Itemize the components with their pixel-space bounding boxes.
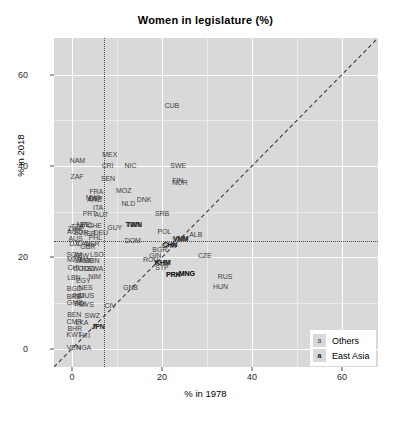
data-point-label: MEX	[102, 151, 117, 158]
legend-label: Others	[332, 336, 359, 346]
legend-item-east-asia[interactable]: aEast Asia	[313, 348, 370, 363]
y-axis-tick-label: 60	[0, 70, 28, 80]
data-point-label: NGA	[76, 344, 91, 351]
data-point-label: POL	[157, 227, 171, 234]
data-point-label: SWZ	[85, 311, 100, 318]
data-point-label: CUB	[165, 101, 179, 108]
y-axis-tick-mark	[50, 257, 54, 258]
data-point-label: IDN	[88, 257, 100, 264]
data-point-label: SWA	[88, 265, 103, 272]
y-axis-label: % in 2018	[15, 116, 26, 196]
x-axis-label: % in 1978	[0, 388, 411, 399]
legend-key-glyph: a	[313, 334, 326, 347]
legend-label: East Asia	[332, 351, 370, 361]
data-point-label: ALB	[189, 231, 202, 238]
data-point-label: AUT	[94, 210, 108, 217]
data-point-label: ZAF	[70, 172, 83, 179]
plot-panel: CUBMEXNAMCRINICSWEZAFSENFINNORFRAMOZMWIE…	[54, 38, 378, 367]
y-axis-tick-label: 20	[0, 252, 28, 262]
y-axis-tick-mark	[50, 348, 54, 349]
data-point-label: RUS	[218, 272, 232, 279]
x-axis-tick-mark	[72, 367, 73, 371]
data-point-label: NOR	[172, 178, 187, 185]
data-point-label: SWE	[170, 161, 186, 168]
data-point-label: MOZ	[116, 186, 131, 193]
data-point-label: HTI	[79, 332, 90, 339]
data-point-label: VNM	[173, 235, 188, 242]
y-axis-tick-mark	[50, 165, 54, 166]
data-point-label: ARG	[87, 196, 102, 203]
legend-item-others[interactable]: aOthers	[313, 333, 370, 348]
data-point-label: NAM	[70, 157, 85, 164]
data-point-label: SEN	[101, 174, 115, 181]
data-point-label: GBR	[80, 242, 95, 249]
data-point-label: NLD	[121, 199, 135, 206]
data-point-label: HUN	[213, 282, 228, 289]
data-point-label: JPN	[91, 322, 104, 329]
data-point-label: NIC	[125, 162, 137, 169]
data-point-label: CRI	[102, 162, 114, 169]
legend-key-glyph: a	[313, 349, 326, 362]
data-point-label: GUY	[107, 223, 122, 230]
x-axis-tick-label: 60	[322, 372, 362, 382]
data-point-label: MYS	[79, 300, 94, 307]
data-point-label: BEN	[67, 310, 81, 317]
data-point-label: KHM	[155, 258, 171, 265]
x-axis-tick-mark	[162, 367, 163, 371]
chart-root: Women in legislature (%) CUBMEXNAMCRINIC…	[0, 0, 411, 423]
y-axis-tick-mark	[50, 74, 54, 75]
x-axis-tick-label: 0	[52, 372, 92, 382]
data-point-label: DNK	[137, 195, 151, 202]
data-point-label: SRB	[155, 209, 169, 216]
data-point-label: DOM	[125, 236, 141, 243]
data-point-label: PRK	[166, 270, 180, 277]
data-point-label: NES	[78, 283, 92, 290]
identity-line	[54, 38, 378, 367]
page-title: Women in legislature (%)	[0, 14, 411, 26]
x-axis-tick-label: 40	[232, 372, 272, 382]
data-point-label: CIV	[105, 301, 116, 308]
x-axis-tick-mark	[342, 367, 343, 371]
x-axis-tick-mark	[252, 367, 253, 371]
data-point-label: MUS	[79, 291, 94, 298]
y-axis-tick-label: 0	[0, 344, 28, 354]
x-axis-tick-label: 20	[142, 372, 182, 382]
data-point-label: CZE	[198, 251, 212, 258]
data-point-label: NIM	[88, 272, 101, 279]
data-point-label: TWN	[126, 220, 142, 227]
data-point-label: GNB	[123, 284, 138, 291]
legend: aOthersaEast Asia	[310, 330, 376, 366]
data-point-label: MNG	[179, 269, 195, 276]
